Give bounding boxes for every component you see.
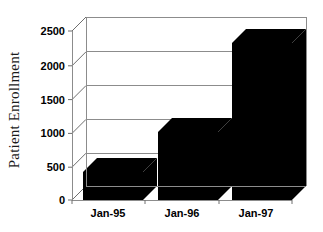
chart-container: 2500 2000 1500 1000 500 0 Jan-95 Jan-96 … (0, 0, 323, 232)
y-tick-label-2000: 2000 (41, 60, 65, 72)
y-tick-label-500: 500 (47, 161, 65, 173)
x-tick-label-jan-96: Jan-96 (165, 207, 200, 219)
bar-front-face (232, 43, 292, 200)
x-axis-ticks (72, 200, 292, 204)
bar-chart: 2500 2000 1500 1000 500 0 Jan-95 Jan-96 … (0, 0, 323, 232)
y-axis-ticks (68, 31, 72, 200)
x-tick-labels: Jan-95 Jan-96 Jan-97 (91, 207, 274, 219)
y-tick-label-1000: 1000 (41, 127, 65, 139)
bar-jan-97[interactable] (232, 29, 306, 200)
y-tick-label-0: 0 (59, 194, 65, 206)
bar-front-face (158, 132, 218, 200)
y-tick-labels: 2500 2000 1500 1000 500 0 (41, 25, 65, 206)
x-tick-label-jan-97: Jan-97 (239, 207, 274, 219)
y-tick-label-2500: 2500 (41, 25, 65, 37)
y-tick-label-1500: 1500 (41, 94, 65, 106)
bar-side-face (292, 29, 306, 200)
x-tick-label-jan-95: Jan-95 (91, 207, 126, 219)
bar-side-face (218, 118, 232, 200)
y-axis-title: Patient Enrollment (6, 51, 22, 168)
bar-jan-95[interactable] (83, 158, 157, 200)
bar-jan-96[interactable] (158, 118, 232, 200)
